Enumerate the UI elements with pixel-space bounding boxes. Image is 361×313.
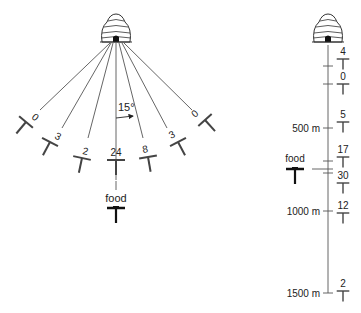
feeder-fan-4 xyxy=(107,160,125,175)
scale-1500m: 1500 m xyxy=(287,288,320,299)
fan-experiment: 15° 0 3 2 24 8 3 0 food xyxy=(9,14,221,223)
feeder-distance-6 xyxy=(337,213,350,224)
feeder-count: 2 xyxy=(340,278,346,289)
feeder-icon xyxy=(337,213,350,224)
feeder-fan-6 xyxy=(170,138,193,160)
feeder-icon xyxy=(337,84,350,95)
food-label: food xyxy=(285,153,304,164)
feeder-count: 3 xyxy=(53,130,63,143)
feeder-count: 0 xyxy=(189,107,201,119)
feeder-distance-4 xyxy=(337,157,350,168)
feeder-icon xyxy=(35,138,58,160)
food-label: food xyxy=(105,192,126,204)
feeder-count: 5 xyxy=(340,109,346,120)
feeder-icon xyxy=(337,183,350,194)
feeder-icon xyxy=(198,114,221,137)
feeder-count: 8 xyxy=(141,143,149,155)
feeder-count: 3 xyxy=(167,128,177,141)
scale-1000m: 1000 m xyxy=(287,206,320,217)
feeder-fan-7 xyxy=(198,114,221,137)
feeder-icon xyxy=(170,138,193,160)
feeder-icon xyxy=(107,206,125,223)
feeder-icon xyxy=(286,167,304,184)
feeder-icon xyxy=(337,157,350,168)
feeder-count: 24 xyxy=(110,147,122,158)
bee-orientation-diagram: 15° 0 3 2 24 8 3 0 food xyxy=(0,0,361,313)
feeder-icon xyxy=(70,156,91,174)
feeder-count: 30 xyxy=(337,170,349,181)
food-feeder xyxy=(286,167,304,184)
beehive-icon xyxy=(100,14,132,42)
angle-label: 15° xyxy=(118,101,135,113)
food-feeder xyxy=(107,206,125,223)
feeder-distance-5 xyxy=(337,183,350,194)
feeder-count: 0 xyxy=(340,71,346,82)
feeder-distance-1 xyxy=(337,59,350,70)
distance-experiment: 500 m 1000 m 1500 m 4 0 5 17 30 12 2 foo… xyxy=(285,14,349,302)
feeder-fan-3 xyxy=(70,156,91,174)
feeder-fan-2 xyxy=(35,138,58,160)
feeder-count: 12 xyxy=(337,200,349,211)
angle-arrow xyxy=(116,116,133,118)
feeder-count: 17 xyxy=(337,144,349,155)
feeder-icon xyxy=(337,59,350,70)
feeder-icon xyxy=(107,160,125,175)
feeder-fan-5 xyxy=(139,155,159,173)
feeder-icon xyxy=(139,155,159,173)
scale-500m: 500 m xyxy=(292,123,320,134)
feeder-icon xyxy=(337,122,350,133)
feeder-distance-7 xyxy=(337,291,350,302)
feeder-distance-3 xyxy=(337,122,350,133)
feeder-count: 4 xyxy=(340,46,346,57)
feeder-count: 0 xyxy=(30,111,42,123)
beehive-icon xyxy=(312,14,344,42)
feeder-icon xyxy=(337,291,350,302)
feeder-count: 2 xyxy=(82,145,90,157)
feeder-fan-1 xyxy=(9,116,32,139)
feeder-distance-2 xyxy=(337,84,350,95)
feeder-icon xyxy=(9,116,32,139)
